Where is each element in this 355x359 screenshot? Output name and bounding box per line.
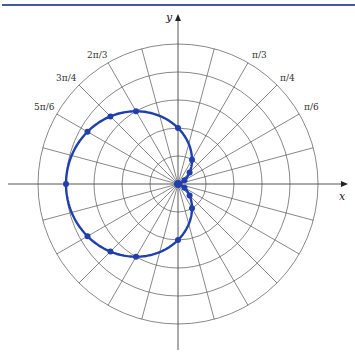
angle-label-pi-3: π/3 bbox=[252, 50, 267, 60]
grid-spoke bbox=[178, 85, 277, 184]
data-point bbox=[181, 177, 187, 183]
grid-spoke bbox=[108, 63, 178, 184]
data-point bbox=[181, 185, 187, 191]
grid-spoke bbox=[178, 114, 299, 184]
data-point bbox=[174, 180, 182, 188]
grid-spoke bbox=[178, 63, 248, 184]
y-axis-label: y bbox=[165, 11, 173, 24]
grid-spoke bbox=[79, 85, 178, 184]
data-point bbox=[175, 125, 181, 131]
data-point bbox=[189, 205, 195, 211]
y-axis-arrow-icon bbox=[175, 14, 181, 21]
grid-spoke bbox=[178, 148, 313, 184]
grid-spoke bbox=[178, 184, 313, 220]
grid-spoke bbox=[178, 184, 299, 254]
angle-labels: π/6 π/4 π/3 2π/3 3π/4 5π/6 bbox=[34, 50, 319, 112]
grid-spoke bbox=[178, 184, 277, 283]
x-axis-label: x bbox=[339, 190, 346, 203]
data-point bbox=[107, 249, 113, 255]
grid-spoke bbox=[108, 184, 178, 305]
data-point bbox=[133, 108, 139, 114]
data-point bbox=[189, 157, 195, 163]
data-point bbox=[63, 181, 69, 187]
angle-label-5pi-6: 5π/6 bbox=[34, 102, 55, 112]
angle-label-3pi-4: 3π/4 bbox=[56, 73, 77, 83]
data-point bbox=[133, 254, 139, 260]
data-point bbox=[187, 193, 193, 199]
grid-spoke bbox=[43, 148, 178, 184]
data-point bbox=[187, 169, 193, 175]
angle-label-pi-4: π/4 bbox=[280, 73, 295, 83]
grid-spoke bbox=[43, 184, 178, 220]
polar-plot: x y π/6 π/4 π/3 2π/3 3π/4 5π/6 bbox=[0, 0, 355, 359]
grid-spoke bbox=[79, 184, 178, 283]
angle-label-pi-6: π/6 bbox=[304, 102, 319, 112]
data-point bbox=[175, 237, 181, 243]
grid-spoke bbox=[178, 184, 248, 305]
grid-spoke bbox=[178, 184, 214, 319]
grid-spoke bbox=[178, 49, 214, 184]
data-point bbox=[107, 113, 113, 119]
angle-label-2pi-3: 2π/3 bbox=[87, 50, 108, 60]
data-point bbox=[85, 233, 91, 239]
x-axis-arrow-icon bbox=[341, 181, 348, 187]
data-point bbox=[85, 129, 91, 135]
